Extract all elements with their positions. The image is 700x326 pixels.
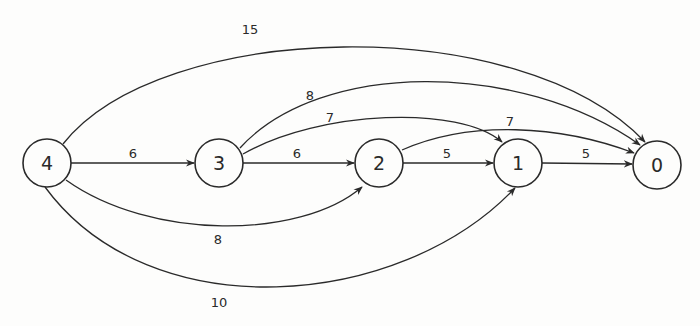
edge-4-to-0 [63, 47, 645, 144]
graph-canvas: 665515877810 43210 [0, 0, 700, 326]
node-1: 1 [494, 139, 542, 187]
node-3: 3 [195, 139, 243, 187]
node-label: 2 [373, 152, 385, 174]
graph-diagram: 665515877810 43210 [0, 0, 700, 326]
edge-weight-label: 8 [214, 232, 222, 247]
edge-3-to-0 [240, 82, 640, 148]
node-label: 1 [512, 152, 524, 174]
edge-weight-label: 15 [242, 22, 259, 37]
edge-weight-label: 6 [293, 146, 301, 161]
edge-weight-label: 8 [306, 88, 314, 103]
edge-weight-label: 7 [326, 110, 334, 125]
edge-weight-label: 7 [506, 114, 514, 129]
edge-weight-label: 5 [582, 146, 590, 161]
node-label: 0 [651, 154, 663, 176]
node-label: 3 [213, 152, 225, 174]
edges-layer: 665515877810 [45, 22, 645, 310]
node-2: 2 [355, 139, 403, 187]
node-0: 0 [633, 141, 681, 189]
node-label: 4 [41, 152, 53, 174]
edge-weight-label: 10 [211, 295, 228, 310]
node-4: 4 [23, 139, 71, 187]
edge-1-to-0 [542, 163, 632, 164]
edge-4-to-1 [45, 187, 515, 287]
edge-weight-label: 5 [443, 146, 451, 161]
edge-weight-label: 6 [129, 146, 137, 161]
